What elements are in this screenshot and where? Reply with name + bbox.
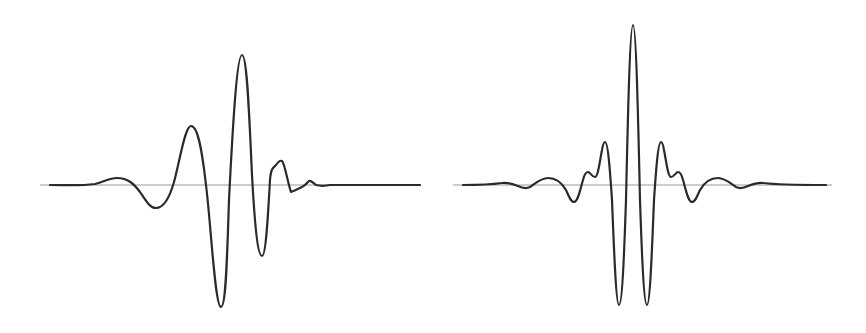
wavelet-figure [0, 0, 866, 333]
figure-canvas: Asymmetric (minimum-phase-like) wavelet … [0, 0, 866, 333]
left-wavelet-panel [40, 55, 421, 307]
right-wavelet-curve [463, 25, 826, 305]
right-wavelet-panel [453, 25, 832, 305]
left-wavelet-curve [50, 55, 420, 307]
